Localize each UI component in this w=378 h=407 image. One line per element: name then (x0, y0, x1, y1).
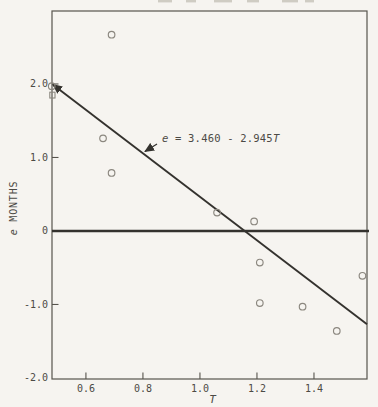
x-axis-title: T (209, 393, 217, 406)
equation-annotation: e = 3.460 - 2.945T (162, 132, 280, 144)
data-point-circle (108, 31, 115, 38)
data-point-circle (251, 218, 258, 225)
y-axis-tick-label: 0 (42, 225, 48, 236)
cropped-caption-fragment (186, 0, 196, 2)
cropped-caption-fragment (282, 0, 298, 2)
fit-line (53, 85, 367, 325)
x-axis-tick-label: 1.0 (191, 383, 209, 394)
x-axis-tick-label: 1.2 (248, 383, 266, 394)
cropped-caption-fragment (158, 0, 172, 2)
plot-border (52, 11, 367, 379)
x-axis-tick-label: 1.4 (305, 383, 323, 394)
y-axis-title: e MONTHS (8, 181, 19, 236)
chart-svg: 2.01.00-1.0-2.00.60.81.01.21.4Te MONTHSe… (0, 0, 378, 407)
data-point-circle (108, 170, 115, 177)
x-axis-tick-label: 0.6 (77, 383, 95, 394)
cropped-caption-fragment (214, 0, 232, 2)
y-axis-tick-label: -1.0 (24, 299, 48, 310)
data-point-circle (257, 259, 264, 266)
scatter-plot-figure: 2.01.00-1.0-2.00.60.81.01.21.4Te MONTHSe… (0, 0, 378, 407)
data-point-circle (333, 328, 340, 335)
y-axis-tick-label: -2.0 (24, 372, 48, 383)
y-axis-tick-label: 2.0 (30, 78, 48, 89)
x-axis-tick-label: 0.8 (134, 383, 152, 394)
y-axis-tick-label: 1.0 (30, 152, 48, 163)
cropped-caption-fragment (305, 0, 314, 2)
data-point-circle (257, 300, 264, 307)
annotation-arrow (145, 144, 157, 152)
data-point-circle (100, 135, 107, 142)
data-point-circle (359, 273, 366, 280)
cropped-caption-fragment (247, 0, 259, 2)
data-point-circle (299, 303, 306, 310)
